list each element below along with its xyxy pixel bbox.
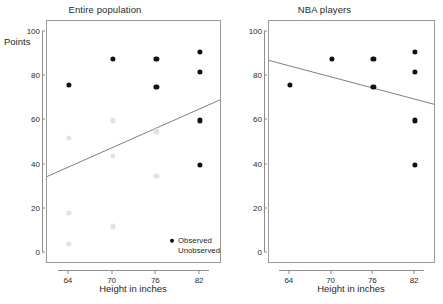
panel-title-entire-population: Entire population <box>0 4 216 15</box>
y-tick-label: 60 <box>22 115 40 124</box>
y-tick-label: 40 <box>244 159 262 168</box>
scatter-figure: Entire population Points 020406080100 64… <box>0 0 443 304</box>
y-tick-label: 60 <box>244 115 262 124</box>
y-tick-label: 40 <box>22 159 40 168</box>
plot-area-nba-players <box>269 21 434 262</box>
y-tick-label: 100 <box>244 27 262 36</box>
y-axis-title: Points <box>4 36 30 47</box>
x-tick-mark <box>372 270 373 274</box>
plot-frame-entire-population <box>46 20 221 263</box>
x-tick-mark <box>111 270 112 274</box>
y-tick-label: 0 <box>22 247 40 256</box>
regression-line-entire-population <box>47 21 220 262</box>
plot-area-entire-population <box>47 21 220 262</box>
y-axis-line <box>264 31 265 252</box>
x-tick-mark <box>67 270 68 274</box>
y-tick-label: 80 <box>22 71 40 80</box>
regression-line-nba-players <box>269 21 434 262</box>
panel-title-nba-players: NBA players <box>214 4 435 15</box>
x-tick-label: 64 <box>63 276 72 285</box>
y-tick-label: 80 <box>244 71 262 80</box>
x-axis-baseline <box>58 270 209 271</box>
plot-frame-nba-players <box>268 20 435 263</box>
legend-label-unobserved: Unobserved <box>178 246 220 256</box>
y-axis-line <box>42 31 43 252</box>
y-tick-label: 20 <box>244 203 262 212</box>
x-tick-mark <box>288 270 289 274</box>
legend-label-observed: Observed <box>178 236 212 246</box>
x-axis-title-left: Height in inches <box>99 283 167 294</box>
y-tick-label: 100 <box>22 27 40 36</box>
x-tick-label: 82 <box>410 276 419 285</box>
y-tick-label: 20 <box>22 203 40 212</box>
x-tick-mark <box>155 270 156 274</box>
panel-nba-players: NBA players 020406080100 64707682 Height… <box>222 0 443 304</box>
x-axis-title-right: Height in inches <box>317 283 385 294</box>
x-tick-mark <box>330 270 331 274</box>
x-axis-baseline <box>279 270 424 271</box>
x-tick-mark <box>199 270 200 274</box>
x-tick-mark <box>414 270 415 274</box>
panel-entire-population: Entire population Points 020406080100 64… <box>0 0 222 304</box>
x-tick-label: 82 <box>195 276 204 285</box>
x-tick-label: 64 <box>284 276 293 285</box>
y-tick-label: 0 <box>244 247 262 256</box>
